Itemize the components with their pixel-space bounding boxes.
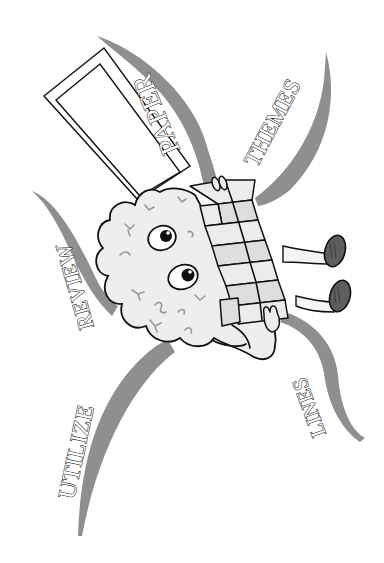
brain-illustration: PAPER THEMES REVIEW UTILIZE LINES <box>0 0 384 563</box>
legs <box>283 233 354 314</box>
leg-upper <box>283 246 330 264</box>
ribbon-utilize <box>78 340 175 536</box>
leg-lower <box>296 296 334 312</box>
label-lines: LINES <box>287 374 331 440</box>
